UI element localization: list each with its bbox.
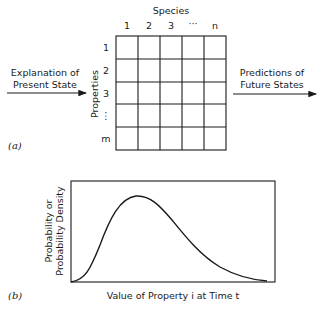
plot-frame [71, 181, 275, 282]
panel-a: Species 1 2 3 ··· n 1 2 3 ⋮ m Properties… [7, 5, 316, 151]
properties-title: Properties [89, 70, 100, 118]
output-text-line2: Future States [240, 79, 303, 90]
species-title: Species [153, 5, 190, 16]
panel-a-label: (a) [8, 140, 22, 151]
row-label-2: 2 [103, 65, 109, 76]
row-label-m: m [101, 133, 110, 144]
input-text-line2: Present State [13, 79, 77, 90]
row-label-ellipsis: ⋮ [101, 110, 111, 121]
xlabel: Value of Property i at Time t [107, 290, 240, 301]
ylabel-line2: Probability Density [54, 186, 65, 276]
column-label-3: 3 [168, 20, 174, 31]
column-label-1: 1 [124, 20, 130, 31]
panel-b-label: (b) [8, 290, 22, 301]
row-label-3: 3 [103, 88, 109, 99]
distribution-curve [71, 196, 267, 282]
column-label-n: n [212, 20, 218, 31]
output-text-line1: Predictions of [240, 67, 305, 78]
diagram-canvas: Species 1 2 3 ··· n 1 2 3 ⋮ m Properties… [0, 0, 327, 309]
panel-b: Probability or Probability Density Value… [8, 181, 275, 301]
species-property-matrix [116, 36, 226, 150]
input-text-line1: Explanation of [11, 67, 80, 78]
ylabel-line1: Probability or [43, 199, 54, 262]
column-label-ellipsis: ··· [188, 18, 197, 29]
column-label-2: 2 [146, 20, 152, 31]
row-label-1: 1 [103, 42, 109, 53]
